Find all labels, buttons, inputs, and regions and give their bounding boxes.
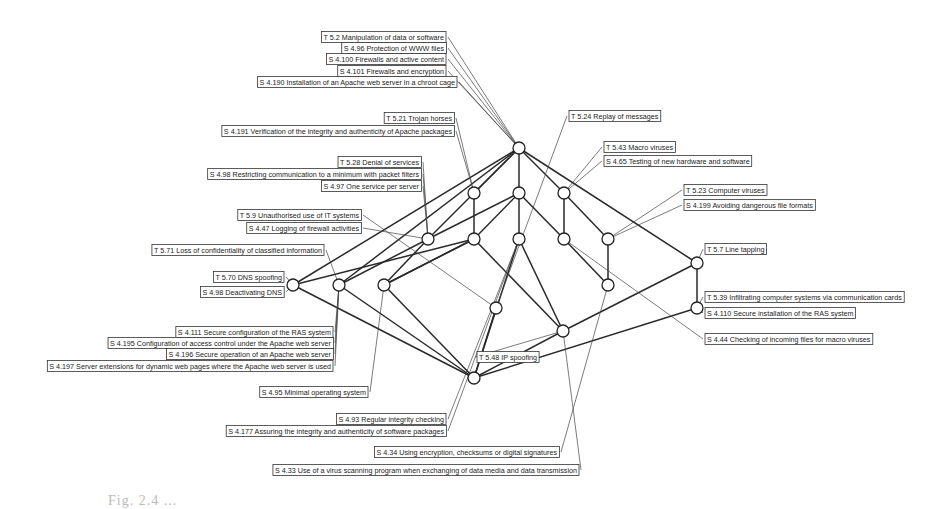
concept-label-s4190: S 4.190 Installation of an Apache web se… (258, 77, 457, 88)
concept-label-s497: S 4.97 One service per server (322, 181, 422, 192)
lattice-edge (563, 263, 697, 331)
concept-label-t523: T 5.23 Computer viruses (684, 185, 767, 196)
label-leader-line (423, 186, 428, 239)
concept-label-t571: T 5.71 Loss of confidentiality of classi… (152, 245, 324, 256)
label-leader-line (448, 48, 519, 148)
concept-label-s4100: S 4.100 Firewalls and active content (327, 54, 446, 65)
label-leader-line (608, 205, 682, 239)
concept-label-text: T 5.9 Unauthorised use of IT systems (240, 211, 360, 220)
concept-label-text: S 4.47 Logging of firewall activities (249, 224, 360, 233)
concept-label-s434: S 4.34 Using encryption, checksums or di… (374, 447, 559, 458)
concept-label-t570: T 5.70 DNS spoofing (213, 272, 284, 283)
concept-label-text: S 4.96 Protection of WWW files (344, 44, 445, 53)
label-leader-line (448, 59, 519, 148)
concept-label-s4197: S 4.197 Server extensions for dynamic we… (47, 361, 333, 372)
concept-label-text: S 4.199 Avoiding dangerous file formats (686, 201, 813, 210)
concept-label-t52: T 5.2 Manipulation of data or software (321, 32, 446, 43)
label-leader-line (563, 331, 581, 470)
lattice-node (333, 279, 345, 291)
lattice-node (513, 187, 525, 199)
concept-label-text: T 5.71 Loss of confidentiality of classi… (154, 246, 322, 255)
concept-label-text: S 4.33 Use of a virus scanning program w… (275, 466, 577, 475)
label-leader-line (448, 37, 519, 148)
label-leader-line (370, 285, 384, 392)
concept-label-text: S 4.111 Secure configuration of the RAS … (178, 328, 331, 337)
figure-caption: Fig. 2.4 ... (108, 493, 177, 509)
concept-label-s495: S 4.95 Minimal operating system (260, 387, 368, 398)
concept-label-t59: T 5.9 Unauthorised use of IT systems (238, 210, 362, 221)
concept-label-text: S 4.98 Restricting communication to a mi… (210, 170, 420, 179)
lattice-node (468, 372, 480, 384)
concept-label-text: S 4.95 Minimal operating system (262, 388, 366, 397)
concept-label-t524: T 5.24 Replay of messages (569, 111, 661, 122)
concept-label-text: S 4.195 Configuration of access control … (110, 339, 332, 348)
lattice-edge (474, 193, 519, 239)
concept-label-text: S 4.191 Verification of the integrity an… (224, 127, 453, 136)
concept-label-s4111: S 4.111 Secure configuration of the RAS … (176, 327, 333, 338)
concept-label-s4177: S 4.177 Assuring the integrity and authe… (226, 426, 446, 437)
label-leader-line (459, 82, 519, 148)
concept-label-text: S 4.197 Server extensions for dynamic we… (49, 362, 331, 371)
concept-label-s4199: S 4.199 Avoiding dangerous file formats (684, 200, 815, 211)
label-leader-line (564, 161, 602, 193)
concept-label-s465: S 4.65 Testing of new hardware and softw… (604, 156, 752, 167)
concept-label-text: S 4.44 Checking of incoming files for ma… (707, 335, 871, 344)
lattice-edge (339, 285, 474, 378)
concept-label-text: S 4.65 Testing of new hardware and softw… (606, 157, 750, 166)
concept-labels: T 5.2 Manipulation of data or softwareS … (47, 32, 904, 476)
concept-label-text: T 5.24 Replay of messages (571, 112, 659, 121)
label-leader-line (608, 190, 682, 239)
lattice-edge (474, 239, 563, 331)
concept-label-s496: S 4.96 Protection of WWW files (342, 43, 447, 54)
lattice-edge (564, 193, 608, 239)
concept-label-text: T 5.39 Infiltrating computer systems via… (707, 293, 902, 302)
concept-label-s4191: S 4.191 Verification of the integrity an… (222, 126, 455, 137)
concept-label-s4110: S 4.110 Secure installation of the RAS s… (705, 308, 856, 319)
concept-label-s4196: S 4.196 Secure operation of an Apache we… (166, 349, 333, 360)
lattice-node (557, 325, 569, 337)
concept-label-text: S 4.101 Firewalls and encryption (340, 67, 444, 76)
concept-label-s433: S 4.33 Use of a virus scanning program w… (273, 465, 579, 476)
concept-label-text: T 5.48 IP spoofing (479, 353, 537, 362)
concept-label-text: S 4.110 Secure installation of the RAS s… (707, 309, 854, 318)
label-leader-line (448, 239, 519, 419)
concept-label-text: T 5.23 Computer viruses (686, 186, 765, 195)
lattice-node (378, 279, 390, 291)
label-leader-lines (286, 37, 703, 470)
label-leader-line (496, 116, 567, 308)
lattice-node (468, 233, 480, 245)
lattice-node (602, 233, 614, 245)
lattice-node (422, 233, 434, 245)
concept-label-s493: S 4.93 Regular integrity checking (337, 414, 446, 425)
concept-label-t528: T 5.28 Denial of services (338, 157, 421, 168)
lattice-edge (384, 285, 474, 378)
lattice-edge (384, 239, 474, 285)
concept-label-t548: T 5.48 IP spoofing (477, 352, 539, 363)
concept-label-s447: S 4.47 Logging of firewall activities (247, 223, 362, 234)
lattice-edge (519, 193, 564, 239)
concept-label-text: T 5.2 Manipulation of data or software (323, 33, 444, 42)
concept-label-text: S 4.177 Assuring the integrity and authe… (228, 427, 444, 436)
lattice-edge (474, 308, 697, 378)
concept-label-text: T 5.21 Trojan horses (386, 114, 452, 123)
lattice-node (602, 279, 614, 291)
label-leader-line (448, 239, 519, 431)
concept-label-t521: T 5.21 Trojan horses (384, 113, 454, 124)
concept-label-s498b: S 4.98 Deactivating DNS (200, 287, 284, 298)
concept-label-s444: S 4.44 Checking of incoming files for ma… (705, 334, 873, 345)
lattice-node (558, 233, 570, 245)
concept-label-s4195: S 4.195 Configuration of access control … (108, 338, 334, 349)
lattice-node (691, 257, 703, 269)
lattice-node (490, 302, 502, 314)
concept-label-text: T 5.28 Denial of services (340, 158, 419, 167)
concept-label-t57: T 5.7 Line tapping (705, 244, 766, 255)
lattice-node (558, 187, 570, 199)
label-leader-line (456, 118, 474, 193)
concept-label-text: S 4.98 Deactivating DNS (202, 288, 282, 297)
lattice-node (287, 279, 299, 291)
concept-label-text: T 5.43 Macro viruses (606, 143, 673, 152)
concept-label-text: S 4.100 Firewalls and active content (329, 55, 444, 64)
concept-label-text: S 4.97 One service per server (324, 182, 420, 191)
concept-label-text: S 4.34 Using encryption, checksums or di… (376, 448, 557, 457)
